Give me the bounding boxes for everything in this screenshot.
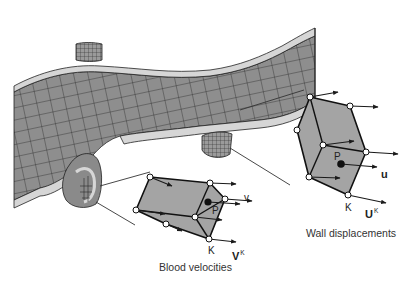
fluid-element (133, 174, 252, 242)
vessel-inner-surface (14, 36, 315, 200)
node-K (206, 236, 212, 242)
node (307, 94, 313, 100)
node (320, 142, 326, 148)
fluid-node-label: K (208, 246, 215, 256)
diagram-canvas (0, 0, 411, 282)
node (306, 174, 312, 180)
node (147, 174, 153, 180)
point-P (204, 198, 211, 205)
fluid-point-label: P (212, 206, 219, 216)
node (294, 127, 300, 133)
wall-node-field-label: UK (365, 208, 378, 220)
wall-field-label: u (381, 169, 388, 180)
node (347, 103, 353, 109)
right-bulge (202, 132, 232, 158)
wall-node-label: K (345, 203, 352, 213)
fluid-node-field-label: VK (232, 250, 245, 262)
wall-element (294, 92, 398, 203)
node (192, 214, 198, 220)
node-K (345, 192, 351, 198)
fluid-field-label: v (244, 193, 249, 203)
node (222, 196, 228, 202)
wall-caption: Wall displacements (306, 228, 396, 239)
node (133, 207, 139, 213)
wall-point-label: P (334, 152, 341, 162)
fluid-caption: Blood velocities (159, 262, 232, 273)
node (363, 149, 369, 155)
node (163, 221, 169, 227)
node (207, 180, 213, 186)
top-bulge (76, 43, 102, 62)
